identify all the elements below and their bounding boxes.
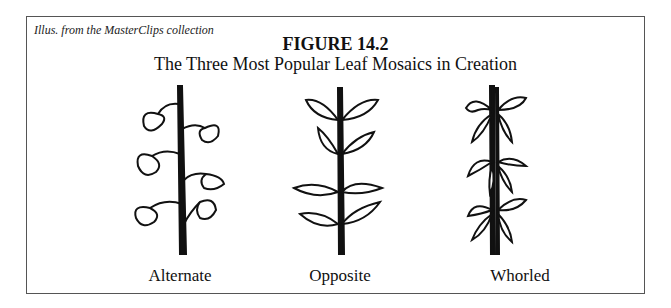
alternate-leaf-icon (110, 84, 250, 264)
panel-whorled: Whorled (450, 84, 590, 284)
caption-whorled: Whorled (450, 266, 590, 286)
figure-subtitle: The Three Most Popular Leaf Mosaics in C… (0, 54, 671, 75)
panel-alternate: Alternate (110, 84, 250, 284)
opposite-leaf-icon (270, 84, 410, 264)
figure-title: FIGURE 14.2 (0, 34, 671, 55)
caption-alternate: Alternate (110, 266, 250, 286)
whorled-leaf-icon (450, 84, 590, 264)
caption-opposite: Opposite (270, 266, 410, 286)
panel-opposite: Opposite (270, 84, 410, 284)
